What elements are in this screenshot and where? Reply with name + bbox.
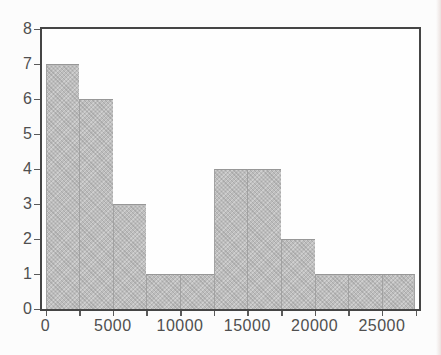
y-axis-tick-label: 0	[6, 301, 32, 317]
y-axis-tick-label: 1	[6, 266, 32, 282]
histogram-bar	[180, 274, 214, 309]
x-axis-tick-label: 15000	[212, 317, 282, 335]
histogram-bar	[113, 204, 147, 309]
histogram-bar	[348, 274, 382, 309]
x-axis-tick	[281, 311, 283, 316]
y-axis-tick	[34, 204, 40, 206]
x-axis-tick-label: 0	[11, 317, 81, 335]
y-axis-tick-label: 5	[6, 126, 32, 142]
x-axis-tick	[247, 311, 249, 316]
histogram-bar	[382, 274, 416, 309]
y-axis-tick-label: 8	[6, 21, 32, 37]
x-axis-tick	[146, 311, 148, 316]
x-axis-tick	[348, 311, 350, 316]
y-axis-tick-label: 3	[6, 196, 32, 212]
y-axis-tick-label: 6	[6, 91, 32, 107]
y-axis-tick	[34, 64, 40, 66]
y-axis-tick	[34, 309, 40, 311]
x-axis-tick	[315, 311, 317, 316]
histogram-bar	[214, 169, 248, 309]
x-axis-tick	[79, 311, 81, 316]
x-axis-tick	[113, 311, 115, 316]
y-axis-tick	[34, 29, 40, 31]
y-axis-tick	[34, 239, 40, 241]
x-axis-tick	[416, 311, 418, 316]
x-axis-tick-label: 20000	[280, 317, 350, 335]
histogram-bar	[146, 274, 180, 309]
y-axis-tick	[34, 274, 40, 276]
y-axis-tick	[34, 134, 40, 136]
x-axis-tick-label: 10000	[145, 317, 215, 335]
x-axis-tick	[180, 311, 182, 316]
y-axis-tick-label: 2	[6, 231, 32, 247]
y-axis-tick	[34, 169, 40, 171]
y-axis-tick-label: 4	[6, 161, 32, 177]
histogram-bar	[46, 64, 80, 309]
y-axis-tick	[34, 99, 40, 101]
histogram-bar	[247, 169, 281, 309]
histogram-bar	[79, 99, 113, 309]
histogram-bar	[315, 274, 349, 309]
histogram-bar	[281, 239, 315, 309]
histogram-figure: 0500010000150002000025000012345678	[0, 0, 441, 355]
page-edge-artifact	[436, 0, 441, 355]
x-axis-tick-label: 25000	[347, 317, 417, 335]
plot-area	[40, 27, 421, 311]
x-axis-tick	[46, 311, 48, 316]
x-axis-tick	[382, 311, 384, 316]
x-axis-tick	[214, 311, 216, 316]
x-axis-tick-label: 5000	[78, 317, 148, 335]
y-axis-tick-label: 7	[6, 56, 32, 72]
